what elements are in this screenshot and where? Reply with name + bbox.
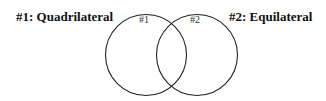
set-1-circle [106,15,187,96]
set-2-circle [157,15,238,96]
venn-diagram: #1 #2 [0,0,326,101]
set-2-circle-label: #2 [190,14,200,25]
set-1-circle-label: #1 [139,14,149,25]
